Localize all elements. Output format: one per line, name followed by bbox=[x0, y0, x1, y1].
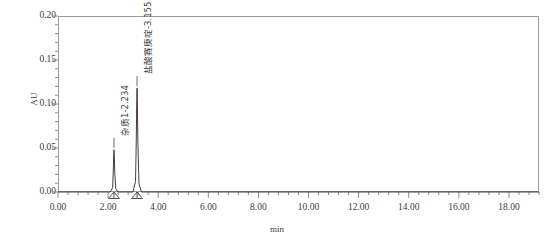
x-axis-tick-label: 0.00 bbox=[36, 202, 80, 212]
chromatogram-plot: AU 0.200.150.100.050.00 0.002.004.006.00… bbox=[0, 0, 554, 251]
x-axis-tick-label: 10.00 bbox=[287, 202, 331, 212]
x-axis-tick-label: 6.00 bbox=[186, 202, 230, 212]
peak-label: 盐酸赛庚啶-3.155 bbox=[141, 2, 153, 74]
x-axis-tick-label: 18.00 bbox=[487, 202, 531, 212]
x-axis-tick-label: 8.00 bbox=[236, 202, 280, 212]
uv-trace-line bbox=[58, 88, 539, 192]
chromatogram-trace bbox=[58, 16, 539, 192]
peak-label: 杂质1-2.234 bbox=[118, 85, 130, 136]
x-axis-tick-label: 4.00 bbox=[136, 202, 180, 212]
x-axis-tick-label: 14.00 bbox=[387, 202, 431, 212]
x-axis-tick-label: 16.00 bbox=[437, 202, 481, 212]
x-axis-title: min bbox=[0, 224, 554, 234]
x-axis-tick-label: 12.00 bbox=[337, 202, 381, 212]
x-axis-tick-label: 2.00 bbox=[86, 202, 130, 212]
